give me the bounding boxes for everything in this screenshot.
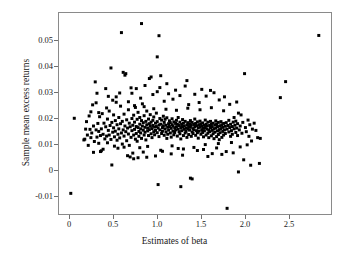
scatter-point [317, 34, 320, 37]
scatter-point [279, 96, 282, 99]
scatter-point [180, 129, 183, 132]
scatter-point [137, 111, 140, 114]
scatter-point [192, 128, 195, 131]
scatter-point [245, 130, 248, 133]
scatter-point [242, 158, 245, 161]
scatter-point [228, 103, 231, 106]
scatter-point [94, 80, 97, 83]
scatter-point [69, 192, 72, 195]
scatter-point [159, 149, 162, 152]
scatter-point [160, 119, 163, 122]
scatter-point [205, 95, 208, 98]
scatter-point [139, 97, 142, 100]
scatter-point [250, 139, 253, 142]
scatter-point [200, 88, 203, 91]
scatter-point [121, 143, 124, 146]
scatter-point [162, 124, 165, 127]
scatter-point [106, 118, 109, 121]
scatter-point [226, 207, 229, 210]
scatter-point [164, 108, 167, 111]
scatter-point [90, 131, 93, 134]
scatter-point [251, 128, 254, 131]
scatter-point [236, 134, 239, 137]
scatter-point [237, 170, 240, 173]
scatter-point [126, 154, 129, 157]
scatter-point [214, 119, 217, 122]
scatter-point [129, 155, 132, 158]
scatter-point [202, 135, 205, 138]
scatter-point [179, 137, 182, 140]
scatter-point [122, 128, 125, 131]
scatter-point [95, 136, 98, 139]
x-tick-label: 1.5 [196, 220, 207, 229]
scatter-point [186, 107, 189, 110]
scatter-point [120, 31, 123, 34]
scatter-point [152, 116, 155, 119]
scatter-point [138, 116, 141, 119]
scatter-point [144, 126, 147, 129]
scatter-point [135, 87, 138, 90]
scatter-point [145, 156, 148, 159]
y-tick-label: 0.05 [38, 36, 53, 45]
scatter-point [218, 138, 221, 141]
scatter-point [165, 82, 168, 85]
scatter-point [177, 128, 180, 131]
scatter-point [233, 116, 236, 119]
scatter-point [181, 154, 184, 157]
scatter-point [123, 74, 126, 77]
scatter-point [127, 100, 130, 103]
x-tick-label: 1.0 [152, 220, 163, 229]
scatter-point [170, 136, 173, 139]
scatter-point [116, 123, 119, 126]
scatter-point [137, 156, 140, 159]
scatter-point [185, 79, 188, 82]
scatter-point [141, 102, 144, 105]
scatter-point [95, 92, 98, 95]
scatter-point [233, 127, 236, 130]
scatter-point [190, 124, 193, 127]
scatter-point [73, 117, 76, 120]
scatter-point [142, 121, 145, 124]
scatter-point [224, 132, 227, 135]
scatter-point [102, 122, 105, 125]
scatter-point [128, 122, 131, 125]
scatter-point [206, 155, 209, 158]
scatter-point [143, 134, 146, 137]
scatter-point [236, 122, 239, 125]
scatter-point [225, 121, 228, 124]
y-tick-label: 0.02 [38, 114, 53, 123]
scatter-point [141, 125, 144, 128]
scatter-point [185, 136, 188, 139]
scatter-point [228, 126, 231, 129]
scatter-point [117, 116, 120, 119]
scatter-point [97, 142, 100, 145]
y-tick-label: 0.03 [38, 88, 53, 97]
scatter-point [218, 98, 221, 101]
scatter-point [147, 134, 150, 137]
scatter-point [215, 146, 218, 149]
scatter-point [234, 120, 237, 123]
scatter-point [116, 139, 119, 142]
scatter-point [190, 135, 193, 138]
scatter-point [247, 119, 250, 122]
scatter-point [198, 101, 201, 104]
scatter-point [227, 130, 230, 133]
scatter-point [157, 135, 160, 138]
scatter-point [150, 76, 153, 79]
scatter-point [207, 136, 210, 139]
scatter-point [144, 120, 147, 123]
scatter-point [167, 129, 170, 132]
scatter-point [95, 101, 98, 104]
scatter-point [156, 55, 159, 58]
scatter-point [133, 104, 136, 107]
scatter-point [132, 114, 135, 117]
scatter-point [197, 137, 200, 140]
scatter-point [110, 121, 113, 124]
scatter-point [108, 110, 111, 113]
scatter-point [247, 135, 250, 138]
scatter-point [235, 127, 238, 130]
scatter-point [145, 110, 148, 113]
scatter-point [223, 128, 226, 131]
scatter-point [133, 128, 136, 131]
scatter-point [144, 138, 147, 141]
